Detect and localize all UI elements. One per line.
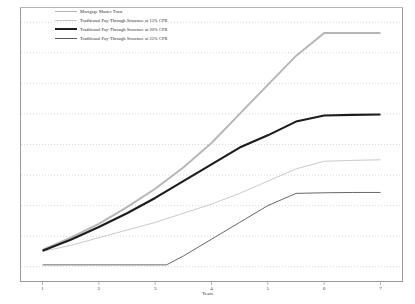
legend-swatch-line-icon — [55, 38, 77, 39]
legend-item[interactable]: Mortgage Master Trust — [55, 7, 205, 15]
legend-item[interactable]: Traditional Pay-Through Structure at 20%… — [55, 25, 205, 33]
legend-item-label: Traditional Pay-Through Structure at 20%… — [80, 27, 168, 32]
legend-swatch-line-icon — [55, 28, 77, 30]
series-line-0 — [43, 33, 381, 250]
x-axis-ticks — [43, 282, 381, 285]
legend-item-label: Traditional Pay-Through Structure at 25%… — [80, 36, 168, 41]
legend-item[interactable]: Traditional Pay-Through Structure at 15%… — [55, 16, 205, 24]
chart-container: Mortgage Master TrustTraditional Pay-Thr… — [0, 0, 415, 304]
legend-swatch-line-icon — [55, 20, 77, 21]
legend-item-label: Mortgage Master Trust — [80, 9, 122, 14]
data-series-group — [43, 33, 381, 265]
legend-item-label: Traditional Pay-Through Structure at 15%… — [80, 18, 168, 23]
legend-item[interactable]: Traditional Pay-Through Structure at 25%… — [55, 34, 205, 42]
x-axis-title: Years — [0, 291, 415, 296]
gridlines-group — [21, 22, 402, 266]
chart-legend: Mortgage Master TrustTraditional Pay-Thr… — [55, 7, 205, 47]
series-line-2 — [43, 115, 381, 251]
legend-swatch-line-icon — [55, 11, 77, 12]
